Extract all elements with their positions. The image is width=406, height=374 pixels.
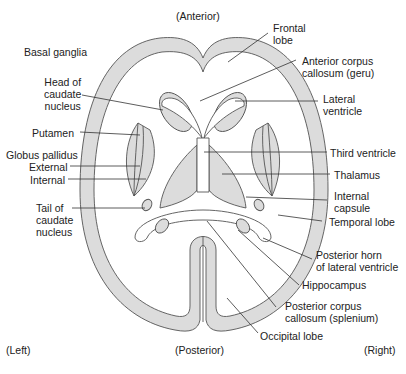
label-line: caudate bbox=[44, 88, 81, 100]
label-tail-caudate: Tail of caudate nucleus bbox=[36, 202, 73, 238]
label-line: of lateral ventricle bbox=[316, 261, 398, 273]
label-third-ventricle: Third ventricle bbox=[330, 147, 396, 159]
label-line: caudate bbox=[36, 214, 73, 226]
label-line: Lateral bbox=[323, 93, 362, 105]
label-line: lobe bbox=[273, 34, 306, 46]
label-line: Posterior horn bbox=[316, 249, 398, 261]
label-head-caudate: Head of caudate nucleus bbox=[44, 76, 81, 112]
label-anterior-corpus-callosum: Anterior corpus callosum (geru) bbox=[302, 55, 374, 79]
label-line: Internal bbox=[334, 190, 370, 202]
label-external: External bbox=[29, 161, 68, 173]
label-posterior-horn: Posterior horn of lateral ventricle bbox=[316, 249, 398, 273]
label-left: (Left) bbox=[6, 344, 31, 356]
label-internal-capsule: Internal capsule bbox=[334, 190, 370, 214]
label-basal-ganglia: Basal ganglia bbox=[24, 46, 87, 58]
third-ventricle bbox=[197, 138, 209, 192]
label-temporal-lobe: Temporal lobe bbox=[329, 216, 395, 228]
label-right: (Right) bbox=[364, 344, 396, 356]
label-globus-pallidus: Globus pallidus bbox=[6, 149, 78, 161]
label-line: nucleus bbox=[44, 100, 81, 112]
label-posterior-corpus-callosum: Posterior corpus callosum (splenium) bbox=[285, 300, 378, 324]
label-posterior: (Posterior) bbox=[175, 344, 224, 356]
label-line: Head of bbox=[44, 76, 81, 88]
label-occipital-lobe: Occipital lobe bbox=[260, 330, 323, 342]
label-line: ventricle bbox=[323, 105, 362, 117]
label-line: callosum (geru) bbox=[302, 67, 374, 79]
label-frontal-lobe: Frontal lobe bbox=[273, 22, 306, 46]
label-line: nucleus bbox=[36, 226, 73, 238]
label-thalamus: Thalamus bbox=[334, 169, 380, 181]
label-putamen: Putamen bbox=[32, 127, 74, 139]
label-line: callosum (splenium) bbox=[285, 312, 378, 324]
label-line: capsule bbox=[334, 202, 370, 214]
label-line: Frontal bbox=[273, 22, 306, 34]
label-lateral-ventricle: Lateral ventricle bbox=[323, 93, 362, 117]
label-line: Posterior corpus bbox=[285, 300, 378, 312]
label-line: Tail of bbox=[36, 202, 73, 214]
label-line: Anterior corpus bbox=[302, 55, 374, 67]
label-internal: Internal bbox=[30, 174, 65, 186]
label-anterior: (Anterior) bbox=[176, 10, 220, 22]
label-hippocampus: Hippocampus bbox=[302, 279, 366, 291]
